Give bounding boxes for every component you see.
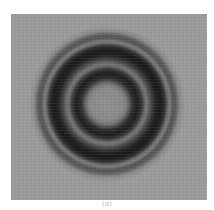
figure-caption: (a) xyxy=(0,200,214,208)
interference-ring-image xyxy=(11,14,207,200)
image-grain xyxy=(11,14,207,200)
